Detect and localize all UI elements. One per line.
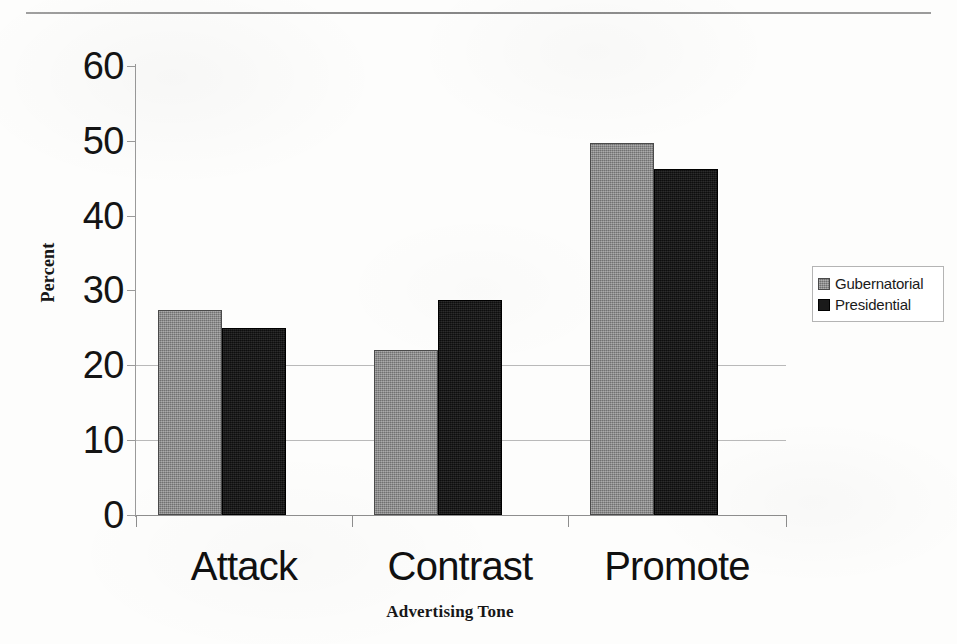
bar-attack-presidential (222, 328, 286, 515)
legend-item-presidential: Presidential (818, 294, 937, 315)
bar-contrast-gubernatorial (374, 350, 438, 515)
y-tick-50 (127, 141, 136, 142)
y-tick-10 (127, 440, 136, 441)
x-tick-right (786, 516, 787, 527)
y-tick-label-0: 0 (24, 496, 124, 534)
x-axis-line (135, 515, 787, 516)
y-tick-0 (127, 515, 136, 516)
y-tick-label-50: 50 (24, 122, 124, 160)
y-tick-20 (127, 365, 136, 366)
x-label-attack: Attack (136, 543, 352, 589)
bar-promote-presidential (654, 169, 718, 515)
legend-swatch-gubernatorial-icon (818, 278, 830, 290)
y-tick-60 (127, 66, 136, 67)
bar-attack-gubernatorial (158, 310, 222, 515)
x-tick-attack-contrast (352, 516, 353, 527)
x-label-promote: Promote (568, 543, 786, 589)
bar-chart: 60 50 40 30 20 10 0 Percent Attack Contr… (0, 0, 957, 644)
y-tick-40 (127, 216, 136, 217)
y-tick-label-60: 60 (24, 47, 124, 85)
legend-label-gubernatorial: Gubernatorial (835, 276, 923, 292)
legend-swatch-presidential-icon (818, 299, 830, 311)
y-tick-label-20: 20 (24, 346, 124, 384)
bar-contrast-presidential (438, 300, 502, 515)
chart-legend: Gubernatorial Presidential (812, 266, 944, 322)
legend-item-gubernatorial: Gubernatorial (818, 273, 937, 294)
chart-page: 60 50 40 30 20 10 0 Percent Attack Contr… (0, 0, 957, 644)
bar-promote-gubernatorial (590, 143, 654, 515)
x-tick-left (136, 516, 137, 527)
y-axis-tick-labels: 60 50 40 30 20 10 0 (12, 0, 124, 644)
y-tick-label-10: 10 (24, 421, 124, 459)
y-axis-title: Percent (38, 213, 59, 333)
plot-area (136, 66, 786, 515)
legend-label-presidential: Presidential (835, 297, 911, 313)
y-tick-30 (127, 290, 136, 291)
x-label-contrast: Contrast (352, 543, 568, 589)
x-tick-contrast-promote (568, 516, 569, 527)
x-axis-title: Advertising Tone (0, 602, 900, 622)
